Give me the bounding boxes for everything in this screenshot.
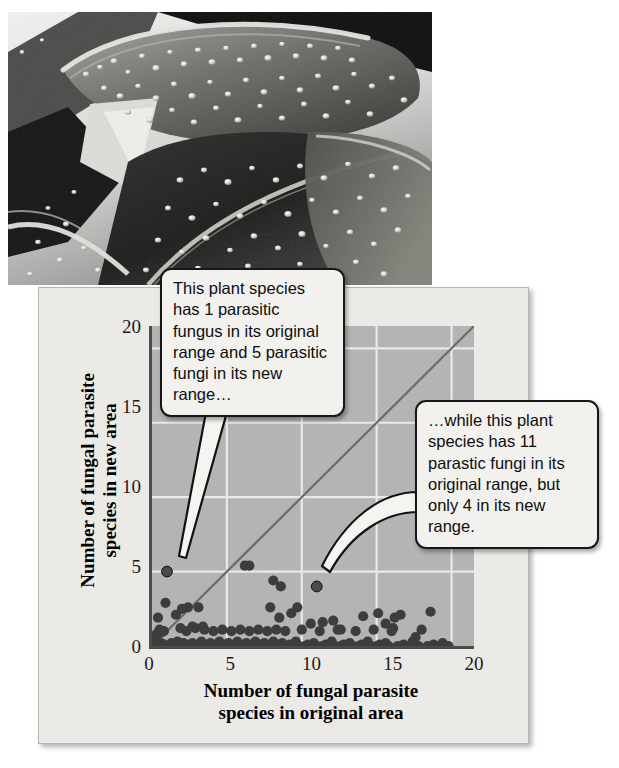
data-point (208, 626, 218, 636)
data-point (276, 581, 286, 591)
x-tick-10: 10 (302, 654, 321, 673)
y-axis-title: Number of fungal parasite species in new… (77, 315, 122, 645)
x-axis-ticks: 0 5 10 15 20 (149, 654, 474, 680)
x-tick-5: 5 (226, 654, 236, 673)
data-point (306, 619, 316, 629)
data-point (265, 602, 275, 612)
data-point (292, 602, 302, 612)
data-point (153, 613, 163, 623)
data-point (396, 610, 406, 620)
x-tick-15: 15 (383, 654, 402, 673)
highlighted-data-point (311, 581, 322, 592)
data-point (159, 626, 169, 636)
y-axis-title-line2: species in new area (99, 315, 121, 645)
data-point (171, 610, 181, 620)
data-point (271, 625, 281, 635)
data-point (235, 625, 245, 635)
data-point (328, 616, 338, 626)
data-point (318, 617, 328, 627)
data-point (244, 561, 254, 571)
data-point (358, 611, 368, 621)
y-tick-15: 15 (122, 397, 141, 416)
data-point (187, 622, 197, 632)
y-axis-title-line1: Number of fungal parasite (77, 315, 99, 645)
x-axis-title: Number of fungal parasite species in ori… (131, 680, 491, 725)
data-point (193, 602, 203, 612)
y-tick-5: 5 (132, 557, 142, 576)
x-tick-0: 0 (144, 654, 154, 673)
data-point (315, 626, 325, 636)
data-point (280, 626, 290, 636)
callout-second: …while this plant species has 11 parasti… (415, 400, 599, 549)
data-point (183, 602, 193, 612)
y-tick-20: 20 (122, 317, 141, 336)
leaf-photograph (8, 12, 432, 285)
x-axis-title-line1: Number of fungal parasite (131, 680, 491, 702)
x-axis-title-line2: species in original area (131, 702, 491, 724)
data-point (198, 622, 208, 632)
callout-first: This plant species has 1 parasitic fungu… (160, 268, 345, 417)
leaf-photograph-graphic (8, 12, 432, 285)
highlighted-data-point (162, 566, 173, 577)
data-point (336, 625, 346, 635)
data-point (262, 626, 272, 636)
data-point (160, 598, 170, 608)
data-point (351, 626, 361, 636)
data-point (226, 626, 236, 636)
x-tick-20: 20 (465, 654, 484, 673)
data-point (373, 608, 383, 618)
y-tick-0: 0 (132, 637, 142, 656)
data-point (297, 625, 307, 635)
data-point (253, 625, 263, 635)
data-point (217, 625, 227, 635)
data-point (175, 623, 185, 633)
data-point (274, 613, 284, 623)
data-point (369, 625, 379, 635)
data-point (388, 623, 398, 633)
data-point (410, 632, 420, 642)
data-point (244, 626, 254, 636)
data-point (425, 607, 435, 617)
y-tick-10: 10 (122, 477, 141, 496)
